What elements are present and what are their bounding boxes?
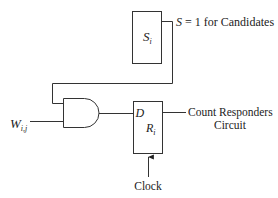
word-bit-input-label: Wi,j [10,116,28,133]
result-register-r: D Ri [134,102,163,154]
clock-label: Clock [134,180,162,192]
d-input-pin-label: D [135,106,145,120]
select-register-s: Si [133,12,162,64]
circuit-label: Circuit [214,119,247,131]
responder-circuit-diagram: Si S = 1 for Candidates Wi,j D Ri Count … [0,0,278,198]
candidates-annotation: S = 1 for Candidates [176,15,274,29]
and-gate-icon [64,99,100,128]
count-responders-label: Count Responders [188,106,273,119]
